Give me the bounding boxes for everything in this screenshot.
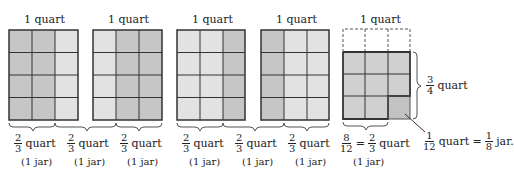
- group-3-fraction: 23 quart: [120, 133, 162, 154]
- group-5-fraction: 23 quart: [235, 133, 277, 154]
- group-4-fraction: 23 quart: [182, 133, 224, 154]
- group-6-jar: (1 jar): [295, 156, 326, 167]
- quart-2: [93, 30, 162, 120]
- group-2-jar: (1 jar): [74, 156, 105, 167]
- group-3-jar: (1 jar): [127, 156, 158, 167]
- group-6-fraction: 23 quart: [288, 133, 330, 154]
- quart-1: [9, 30, 78, 120]
- quart-5-label: 1 quart: [360, 13, 401, 26]
- quart-1-label: 1 quart: [24, 13, 65, 26]
- quart-2-label: 1 quart: [108, 13, 149, 26]
- group-2-fraction: 23 quart: [67, 133, 109, 154]
- last-jar: (1 jar): [353, 156, 384, 167]
- quart-5: [343, 29, 425, 132]
- group-5-jar: (1 jar): [242, 156, 273, 167]
- three-fourths-label: 34 quart: [426, 75, 468, 96]
- one-twelfth-label: 112 quart = 18 jar.: [423, 131, 514, 152]
- quart-3: [177, 30, 245, 120]
- quart-3-label: 1 quart: [192, 13, 233, 26]
- group-1-fraction: 23 quart: [14, 133, 56, 154]
- group-1-jar: (1 jar): [21, 156, 52, 167]
- quart-4-label: 1 quart: [276, 13, 317, 26]
- eight-twelfths-label: 812 = 23 quart: [340, 133, 410, 154]
- group-4-jar: (1 jar): [189, 156, 220, 167]
- quart-4: [261, 30, 329, 120]
